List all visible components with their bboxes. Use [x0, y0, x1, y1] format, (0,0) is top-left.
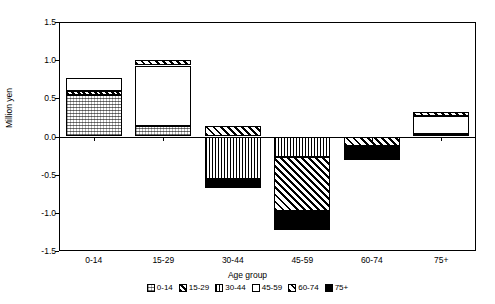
legend-label: 75+: [335, 283, 349, 292]
legend-label: 45-59: [262, 283, 282, 292]
x-axis-tick-mark: [302, 137, 303, 141]
x-axis-title: Age group: [0, 270, 495, 280]
x-axis-tick-mark: [441, 137, 442, 141]
bar-segment[interactable]: [66, 78, 122, 90]
legend-swatch-icon: [252, 284, 260, 292]
y-axis-tick-label: 0.0: [44, 133, 56, 142]
legend-label: 15-29: [189, 283, 209, 292]
legend-swatch-icon: [147, 284, 155, 292]
x-axis-tick-mark: [163, 137, 164, 141]
x-axis-tick-label: 75+: [401, 256, 481, 265]
legend-item[interactable]: 75+: [325, 283, 349, 292]
legend-swatch-icon: [179, 284, 187, 292]
y-axis-tick-label: -1.5: [41, 247, 56, 256]
y-axis-tick-label: 1.5: [44, 18, 56, 27]
bar-segment[interactable]: [205, 137, 261, 180]
bar-segment[interactable]: [413, 112, 469, 116]
chart-legend: 0-1415-2930-4445-5960-7475+: [0, 283, 495, 292]
x-axis-tick-label: 45-59: [262, 256, 342, 265]
y-axis-tick-label: 1.0: [44, 56, 56, 65]
x-axis-tick-label: 30-44: [193, 256, 273, 265]
x-axis-tick-mark: [233, 137, 234, 141]
bar-segment[interactable]: [135, 126, 191, 137]
legend-item[interactable]: 45-59: [252, 283, 282, 292]
bar-segment[interactable]: [66, 91, 122, 96]
bar-segment[interactable]: [135, 66, 191, 126]
legend-swatch-icon: [325, 284, 333, 292]
y-axis-title-text: Million yen: [4, 88, 14, 128]
legend-swatch-icon: [288, 284, 296, 292]
bar-segment[interactable]: [274, 157, 330, 211]
bar-segment[interactable]: [413, 116, 469, 134]
y-axis-tick-label: -1.0: [41, 209, 56, 218]
legend-label: 30-44: [225, 283, 245, 292]
legend-item[interactable]: 15-29: [179, 283, 209, 292]
x-axis-tick-label: 15-29: [123, 256, 203, 265]
y-axis-title: Million yen: [4, 68, 14, 108]
y-axis-tick-label: 0.5: [44, 94, 56, 103]
x-axis-tick-label: 60-74: [332, 256, 412, 265]
x-axis-tick-mark: [372, 137, 373, 141]
legend-swatch-icon: [215, 284, 223, 292]
y-axis-tick-label: -0.5: [41, 171, 56, 180]
legend-item[interactable]: 60-74: [288, 283, 318, 292]
bar-chart: Million yen 1.51.00.50.0-0.5-1.0-1.5 0-1…: [0, 0, 495, 304]
bar-segment[interactable]: [66, 95, 122, 136]
bar-segment[interactable]: [274, 211, 330, 229]
legend-item[interactable]: 0-14: [147, 283, 173, 292]
x-axis-tick-label: 0-14: [54, 256, 134, 265]
bar-segment[interactable]: [344, 146, 400, 160]
bar-segment[interactable]: [205, 126, 261, 137]
bar-segment[interactable]: [135, 60, 191, 65]
legend-label: 60-74: [298, 283, 318, 292]
bar-segment[interactable]: [205, 179, 261, 188]
x-axis-tick-mark: [94, 137, 95, 141]
legend-label: 0-14: [157, 283, 173, 292]
legend-item[interactable]: 30-44: [215, 283, 245, 292]
